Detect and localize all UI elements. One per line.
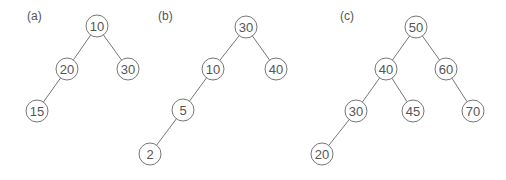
node-value: 50	[409, 20, 423, 35]
node-value: 10	[206, 62, 220, 77]
node-value: 45	[406, 104, 420, 119]
tree-node: 20	[56, 58, 78, 80]
tree-edge	[220, 36, 239, 61]
node-value: 15	[30, 104, 44, 119]
tree-node: 30	[117, 58, 139, 80]
tree-node: 20	[311, 143, 333, 165]
tree-node: 10	[202, 58, 224, 80]
node-value: 2	[146, 147, 153, 162]
panel-label: (b)	[158, 9, 173, 23]
node-value: 20	[315, 147, 329, 162]
tree-node: 2	[139, 143, 161, 165]
tree-panel-a: (a)10203015	[26, 9, 139, 122]
tree-panel-c: (c)50406030457020	[311, 9, 484, 165]
node-value: 70	[466, 104, 480, 119]
panel-label: (c)	[340, 9, 354, 23]
tree-node: 40	[265, 58, 287, 80]
tree-edge	[362, 78, 379, 102]
tree-node: 60	[435, 58, 457, 80]
tree-node: 50	[405, 16, 427, 38]
tree-node: 15	[26, 100, 48, 122]
tree-edge	[329, 120, 349, 146]
tree-edge	[103, 35, 121, 60]
node-value: 5	[179, 103, 186, 118]
tree-edge	[252, 36, 269, 60]
tree-edge	[43, 78, 60, 102]
tree-edge	[157, 119, 177, 145]
tree-node: 30	[235, 16, 257, 38]
tree-node: 10	[86, 15, 108, 37]
node-value: 60	[439, 62, 453, 77]
tree-panel-b: (b)30104052	[139, 9, 287, 165]
node-value: 40	[379, 62, 393, 77]
node-value: 30	[239, 20, 253, 35]
tree-node: 40	[375, 58, 397, 80]
tree-node: 70	[462, 100, 484, 122]
tree-edge	[422, 36, 439, 60]
tree-node: 5	[172, 99, 194, 121]
node-value: 30	[121, 62, 135, 77]
tree-edge	[392, 36, 409, 60]
node-value: 30	[349, 104, 363, 119]
panel-label: (a)	[27, 9, 42, 23]
tree-node: 45	[402, 100, 424, 122]
tree-diagram-canvas: (a)10203015(b)30104052(c)50406030457020	[0, 0, 506, 180]
tree-edge	[452, 78, 467, 101]
node-value: 20	[60, 62, 74, 77]
node-value: 10	[90, 19, 104, 34]
tree-edge	[392, 78, 407, 101]
node-value: 40	[269, 62, 283, 77]
tree-edge	[73, 35, 90, 60]
tree-node: 30	[345, 100, 367, 122]
tree-edge	[189, 78, 206, 101]
